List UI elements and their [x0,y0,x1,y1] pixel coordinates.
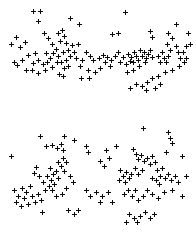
scatter-point [170,188,175,193]
scatter-point [68,54,73,59]
scatter-point [57,72,62,77]
scatter-point [98,159,103,164]
scatter-point [84,50,89,55]
scatter-point [24,190,29,195]
scatter-figure [0,0,196,233]
scatter-point [174,22,179,27]
scatter-point [45,174,50,179]
scatter-point [47,184,52,189]
scatter-point [72,212,77,217]
scatter-point [186,31,191,36]
scatter-point [176,180,181,185]
scatter-point [48,166,53,171]
scatter-point [62,169,67,174]
scatter-point [72,138,77,143]
scatter-point [71,180,76,185]
scatter-point [145,188,150,193]
scatter-point [59,60,64,65]
scatter-point [116,31,121,36]
scatter-point [43,68,48,73]
scatter-point [58,39,63,44]
scatter-point [166,31,171,36]
scatter-point [134,152,139,157]
scatter-point [169,178,174,183]
scatter-point [155,168,160,173]
scatter-point [9,154,14,159]
scatter-point [150,176,155,181]
scatter-point [162,190,167,195]
scatter-point [55,60,60,65]
scatter-point [86,150,91,155]
scatter-point [70,43,75,48]
scatter-point [26,202,31,207]
scatter-point [76,42,81,47]
scatter-point [62,66,67,71]
scatter-point [36,58,41,63]
scatter-point [135,220,140,225]
scatter-point [178,56,183,61]
scatter-point [158,82,163,87]
scatter-point [118,168,123,173]
scatter-point [160,50,165,55]
scatter-point [36,71,41,76]
scatter-point [134,82,139,87]
scatter-point [125,70,130,75]
scatter-point [157,182,162,187]
scatter-point [163,176,168,181]
scatter-point [66,208,71,213]
scatter-point [140,54,145,59]
scatter-point [133,166,138,171]
scatter-point [176,50,181,55]
scatter-point [117,178,122,183]
scatter-point [122,192,127,197]
scatter-point [38,134,43,139]
scatter-point [97,56,102,61]
scatter-point [50,143,55,148]
scatter-point [136,58,141,63]
scatter-point [98,200,103,205]
scatter-point [33,200,38,205]
scatter-point [56,31,61,36]
scatter-point [64,186,69,191]
scatter-point [91,58,96,63]
scatter-point [128,59,133,64]
scatter-point [127,176,132,181]
scatter-point [23,40,28,45]
scatter-point [9,42,14,47]
scatter-point [31,61,36,66]
scatter-point [64,160,69,165]
scatter-point [123,180,128,185]
scatter-point [166,130,171,135]
scatter-point [28,184,33,189]
scatter-point [59,142,64,147]
scatter-point [20,186,25,191]
scatter-point [36,19,41,24]
scatter-point [100,194,105,199]
scatter-point [34,165,39,170]
scatter-point [170,36,175,41]
scatter-panel-bottom [0,118,196,233]
scatter-point [32,171,37,176]
scatter-point [142,159,147,164]
scatter-point [50,188,55,193]
scatter-point [160,166,165,171]
scatter-point [108,64,113,69]
scatter-point [26,53,31,58]
scatter-point [68,16,73,21]
scatter-point [177,64,182,69]
scatter-point [54,194,59,199]
scatter-point [106,190,111,195]
scatter-point [104,148,109,153]
scatter-point [56,176,61,181]
scatter-point [140,168,145,173]
scatter-point [182,60,187,65]
scatter-point [64,58,69,63]
scatter-point [110,32,115,37]
scatter-point [61,148,66,153]
scatter-point [121,55,126,60]
scatter-point [184,44,189,49]
scatter-point [158,60,163,65]
scatter-point [64,41,69,46]
scatter-point [164,60,169,65]
scatter-point [152,212,157,217]
